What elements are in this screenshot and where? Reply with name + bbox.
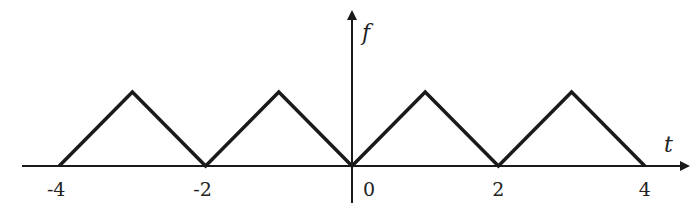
x-tick-label: -2 [193, 178, 212, 200]
triangle-wave-diagram: t f -4-2024 [0, 0, 698, 209]
x-tick-label: 4 [639, 178, 651, 200]
t-axis-label: t [664, 132, 673, 157]
f-axis-label: f [360, 20, 374, 45]
x-tick-label: -4 [47, 178, 66, 200]
x-tick-label: 2 [492, 178, 504, 200]
x-tick-label: 0 [363, 178, 375, 200]
